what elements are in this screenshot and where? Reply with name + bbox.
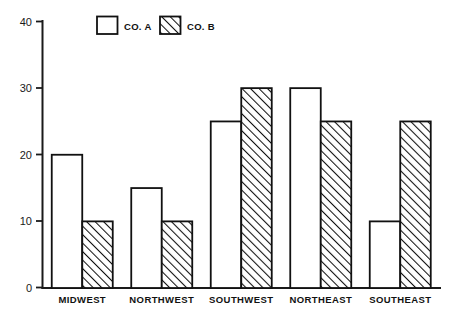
bar-midwest-cob	[82, 221, 113, 288]
bar-midwest-coa	[52, 155, 83, 288]
bar-chart: 40 30 20 10 0 MIDWESTNORTHWESTSOUTHWESTN…	[0, 0, 459, 321]
x-category-label-northwest: NORTHWEST	[129, 294, 194, 305]
bar-northeast-cob	[321, 121, 352, 288]
x-category-label-southwest: SOUTHWEST	[209, 294, 273, 305]
legend-swatch-co-a	[97, 17, 118, 35]
bar-northwest-cob	[162, 221, 193, 288]
y-tick-label-20: 20	[20, 149, 32, 161]
chart-canvas: 40 30 20 10 0 MIDWESTNORTHWESTSOUTHWESTN…	[0, 0, 459, 321]
y-tick-label-0: 0	[26, 282, 32, 294]
bar-northwest-coa	[131, 188, 162, 288]
y-tick-label-40: 40	[20, 16, 32, 28]
x-category-label-northeast: NORTHEAST	[289, 294, 352, 305]
legend-label-co-b: CO. B	[187, 21, 215, 32]
y-tick-label-30: 30	[20, 82, 32, 94]
bar-southwest-cob	[241, 88, 272, 288]
bar-northeast-coa	[290, 88, 321, 288]
bar-southeast-cob	[400, 121, 431, 288]
bar-southwest-coa	[211, 121, 242, 288]
bar-southeast-coa	[370, 221, 401, 288]
legend-label-co-a: CO. A	[124, 21, 152, 32]
x-category-label-southeast: SOUTHEAST	[369, 294, 431, 305]
legend-swatch-co-b	[160, 17, 181, 35]
x-category-label-midwest: MIDWEST	[58, 294, 106, 305]
y-tick-label-10: 10	[20, 215, 32, 227]
